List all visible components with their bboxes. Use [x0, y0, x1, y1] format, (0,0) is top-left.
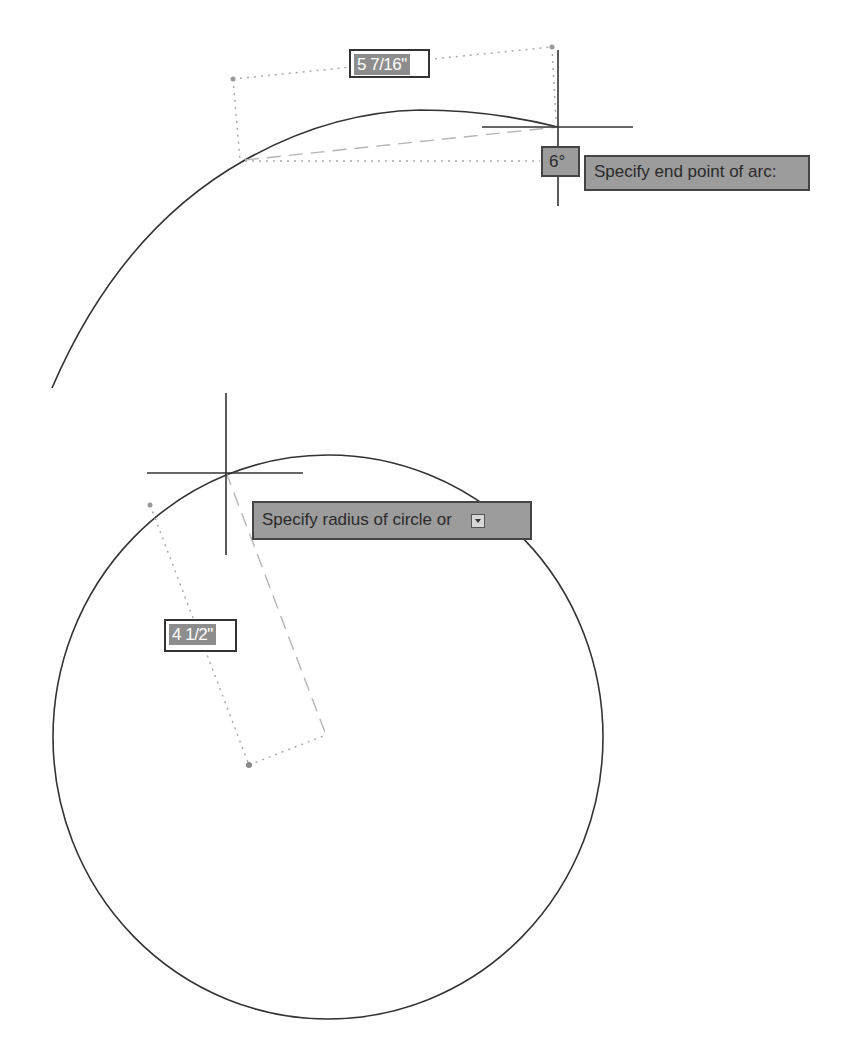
arc-chord-preview: [245, 127, 558, 160]
dimension-grip: [550, 45, 555, 50]
radius-dimension-input[interactable]: 4 1/2": [164, 619, 237, 652]
angle-value: 6°: [549, 152, 565, 171]
arc-length-dimension-input[interactable]: 5 7/16": [349, 49, 430, 78]
arc-geometry: [52, 110, 558, 388]
dynamic-input-prompt-arc: Specify end point of arc:: [584, 155, 810, 191]
dimension-grip: [231, 77, 236, 82]
dynamic-input-prompt-circle: Specify radius of circle or: [252, 501, 532, 540]
prompt-text: Specify end point of arc:: [594, 162, 776, 181]
dimension-grip: [148, 503, 153, 508]
prompt-text: Specify radius of circle or: [262, 510, 452, 529]
angle-dimension-input[interactable]: 6°: [541, 146, 580, 177]
dimension-value: 4 1/2": [169, 624, 216, 645]
arc-drawing: [52, 45, 633, 389]
dropdown-arrow-icon[interactable]: [471, 514, 485, 528]
dimension-value: 5 7/16": [354, 54, 410, 75]
circle-center-grip: [246, 762, 252, 768]
circle-drawing: [53, 393, 603, 1019]
